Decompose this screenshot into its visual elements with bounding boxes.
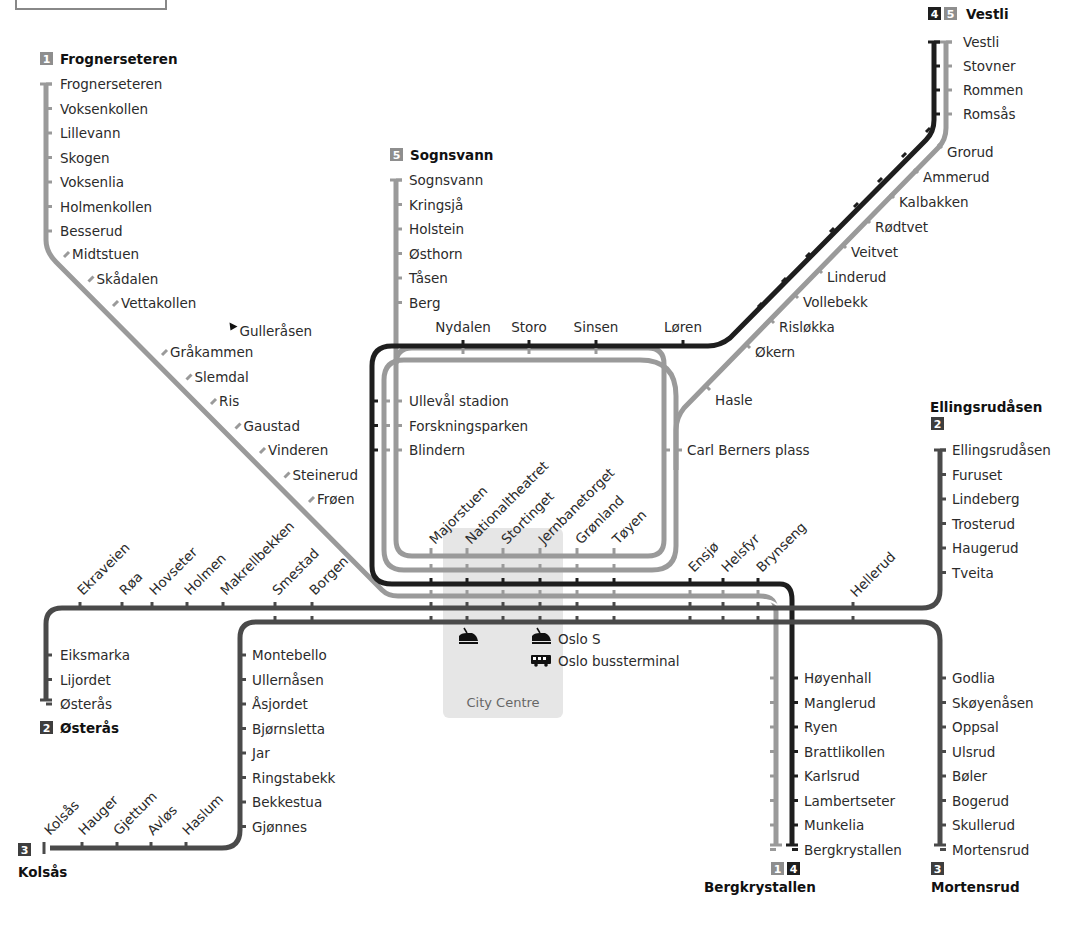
station-label[interactable]: Kringsjå [409,197,463,213]
station-label[interactable]: Ryen [804,719,838,735]
station-label[interactable]: Løren [664,319,702,335]
station-label[interactable]: Romsås [963,106,1016,122]
station-label[interactable]: Ris [219,393,239,409]
oslo-s-label[interactable]: Oslo S [558,631,601,647]
station-label[interactable]: Berg [409,295,440,311]
terminal-kolsas[interactable]: Kolsås [18,864,67,880]
station-label[interactable]: Ellingsrudåsen [952,442,1051,458]
station-label[interactable]: Hellerud [847,549,899,601]
station-label[interactable]: Voksenlia [60,174,124,190]
station-label[interactable]: Skådalen [97,271,159,287]
station-label[interactable]: Slemdal [195,369,249,385]
station-label[interactable]: Åsjordet [252,696,308,712]
station-label[interactable]: Østerås [60,696,112,712]
station-label[interactable]: Manglerud [804,695,876,711]
terminal-vestli[interactable]: Vestli [966,6,1009,22]
station-label[interactable]: Tveita [951,565,994,581]
station-label[interactable]: Grorud [947,144,994,160]
station-label[interactable]: Sognsvann [409,172,483,188]
station-label[interactable]: Haslum [179,791,226,838]
station-label[interactable]: Skogen [60,150,110,166]
station-label[interactable]: Oppsal [952,719,999,735]
station-label[interactable]: Vestli [963,34,999,50]
station-label[interactable]: Eiksmarka [60,647,130,663]
station-label[interactable]: Økern [755,344,795,360]
station-label[interactable]: Ammerud [923,169,990,185]
station-label[interactable]: Montebello [252,647,327,663]
station-label[interactable]: Holstein [409,221,464,237]
terminal-mortensrud[interactable]: Mortensrud [931,879,1020,895]
station-label[interactable]: Voksenkollen [60,101,148,117]
station-label[interactable]: Sinsen [574,319,619,335]
station-label[interactable]: Nydalen [435,319,491,335]
station-label[interactable]: Lindeberg [952,491,1019,507]
station-label[interactable]: Høyenhall [804,670,872,686]
station-label[interactable]: Ullevål stadion [409,393,509,409]
station-label[interactable]: Blindern [409,442,465,458]
station-label[interactable]: Hasle [715,392,753,408]
station-label[interactable]: Frøen [317,491,354,507]
line-number: 2 [934,418,942,431]
station-label[interactable]: Haugerud [952,540,1019,556]
station-label[interactable]: Vettakollen [121,295,196,311]
station-label[interactable]: Trosterud [951,516,1015,532]
station-label[interactable]: Jar [251,745,270,761]
station-label[interactable]: Bogerud [952,793,1009,809]
station-label[interactable]: Kalbakken [899,194,969,210]
station-label[interactable]: Røa [116,568,146,598]
station-label[interactable]: Ensjø [685,538,722,575]
station-tick [162,350,167,355]
station-label[interactable]: Lillevann [60,125,120,141]
station-label[interactable]: Besserud [60,223,123,239]
terminal-frognerseteren[interactable]: Frognerseteren [60,51,178,67]
station-label[interactable]: Skøyenåsen [952,695,1034,711]
station-tick [89,277,94,282]
station-label[interactable]: Midtstuen [72,246,139,262]
station-label[interactable]: Frognerseteren [60,76,162,92]
station-label[interactable]: Vinderen [268,442,328,458]
station-label[interactable]: Skullerud [952,817,1015,833]
station-label[interactable]: Rødtvet [875,219,928,235]
station-label[interactable]: Kolsås [41,797,82,838]
station-tick [902,153,906,157]
station-label[interactable]: Ulsrud [952,744,995,760]
station-label[interactable]: Østhorn [409,246,463,262]
station-label[interactable]: Holmenkollen [60,199,152,215]
terminal-bergkrystallen[interactable]: Bergkrystallen [704,879,816,895]
station-label[interactable]: Bøler [952,768,988,784]
station-tick [878,178,882,182]
station-label[interactable]: Brynseng [753,519,809,575]
station-label[interactable]: Veitvet [851,244,898,260]
station-label[interactable]: Bergkrystallen [804,842,902,858]
station-label[interactable]: Furuset [952,467,1002,483]
station-label[interactable]: Linderud [827,269,886,285]
station-label[interactable]: Forskningsparken [409,418,528,434]
terminal-ellingsrudasen[interactable]: Ellingsrudåsen [930,399,1042,415]
station-label[interactable]: Tåsen [408,270,448,286]
station-label[interactable]: Gjønnes [252,819,307,835]
station-label[interactable]: Brattlikollen [804,744,885,760]
station-label[interactable]: Carl Berners plass [687,442,810,458]
station-label[interactable]: Risløkka [779,319,835,335]
station-label[interactable]: Gulleråsen [240,323,313,339]
terminal-osteras[interactable]: Østerås [60,720,119,736]
station-label[interactable]: Bekkestua [252,794,322,810]
station-label[interactable]: Munkelia [804,817,864,833]
station-label[interactable]: Lijordet [60,672,111,688]
station-label[interactable]: Vollebekk [803,294,868,310]
station-label[interactable]: Bjørnsletta [252,721,325,737]
oslo-bussterminal-label[interactable]: Oslo bussterminal [558,653,680,669]
station-label[interactable]: Mortensrud [952,842,1029,858]
station-label[interactable]: Storo [511,319,547,335]
station-label[interactable]: Gråkammen [170,344,253,360]
station-label[interactable]: Stovner [963,58,1016,74]
station-label[interactable]: Rommen [963,82,1023,98]
station-label[interactable]: Gaustad [244,418,300,434]
station-label[interactable]: Steinerud [293,467,358,483]
station-label[interactable]: Ullernåsen [252,672,324,688]
station-label[interactable]: Karlsrud [804,768,860,784]
terminal-sognsvann[interactable]: Sognsvann [410,147,493,163]
station-label[interactable]: Lambertseter [804,793,896,809]
station-label[interactable]: Godlia [952,670,995,686]
station-label[interactable]: Ringstabekk [252,770,336,786]
